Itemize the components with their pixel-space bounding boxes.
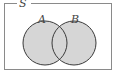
set-b-label: B <box>70 13 79 26</box>
set-a-label: A <box>37 13 46 26</box>
universe-label: S <box>19 0 27 10</box>
venn-diagram: S A B <box>0 0 117 75</box>
